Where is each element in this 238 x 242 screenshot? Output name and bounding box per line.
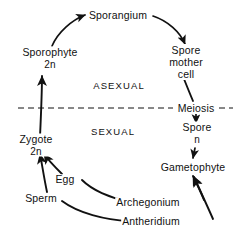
- node-spore-ploidy: n: [183, 133, 212, 145]
- node-gametophyte-label: Gametophyte: [161, 161, 226, 173]
- node-sporangium-label: Sporangium: [89, 9, 147, 21]
- arrow-egg-to-zygote: [44, 154, 62, 174]
- node-spore-mother-cell-label: Spore mother cell: [169, 44, 203, 80]
- node-spore: Spore n: [182, 122, 213, 145]
- region-sexual-text: SEXUAL: [91, 126, 135, 137]
- region-asexual-text: ASEXUAL: [93, 80, 145, 91]
- node-sporangium: Sporangium: [88, 10, 148, 22]
- arrow-spore-to-gametophyte: [193, 148, 195, 158]
- node-meiosis-label: Meiosis: [178, 102, 215, 114]
- node-meiosis: Meiosis: [175, 102, 218, 114]
- node-sporophyte-ploidy: 2n: [22, 58, 77, 70]
- node-sporophyte: Sporophyte 2n: [21, 47, 78, 70]
- node-archegonium-label: Archegonium: [116, 196, 180, 208]
- node-gametophyte: Gametophyte: [160, 162, 227, 174]
- node-zygote: Zygote 2n: [19, 134, 54, 157]
- region-label-asexual: ASEXUAL: [91, 80, 147, 91]
- node-antheridium-label: Antheridium: [122, 215, 180, 227]
- node-egg: Egg: [54, 174, 75, 186]
- arrow-sporophyte-to-sporangium: [52, 15, 85, 46]
- line-gametophyte-to-antheridium: [194, 177, 213, 219]
- life-cycle-diagram: Sporangium Sporophyte 2n Spore mother ce…: [0, 0, 238, 242]
- arrow-sperm-to-zygote: [40, 154, 47, 192]
- arrow-sporangium-to-spore-mother-cell: [153, 16, 185, 44]
- node-antheridium: Antheridium: [121, 216, 181, 228]
- node-zygote-label: Zygote: [20, 134, 53, 146]
- node-sperm-label: Sperm: [25, 192, 57, 204]
- arrow-zygote-to-sporophyte: [40, 76, 42, 137]
- region-label-sexual: SEXUAL: [89, 126, 137, 137]
- node-spore-label: Spore: [183, 122, 212, 134]
- node-egg-label: Egg: [55, 173, 74, 185]
- node-zygote-ploidy: 2n: [20, 145, 53, 157]
- node-sporophyte-label: Sporophyte: [22, 47, 77, 59]
- node-archegonium: Archegonium: [115, 197, 181, 209]
- node-sperm: Sperm: [24, 193, 58, 205]
- node-spore-mother-cell: Spore mother cell: [163, 44, 209, 80]
